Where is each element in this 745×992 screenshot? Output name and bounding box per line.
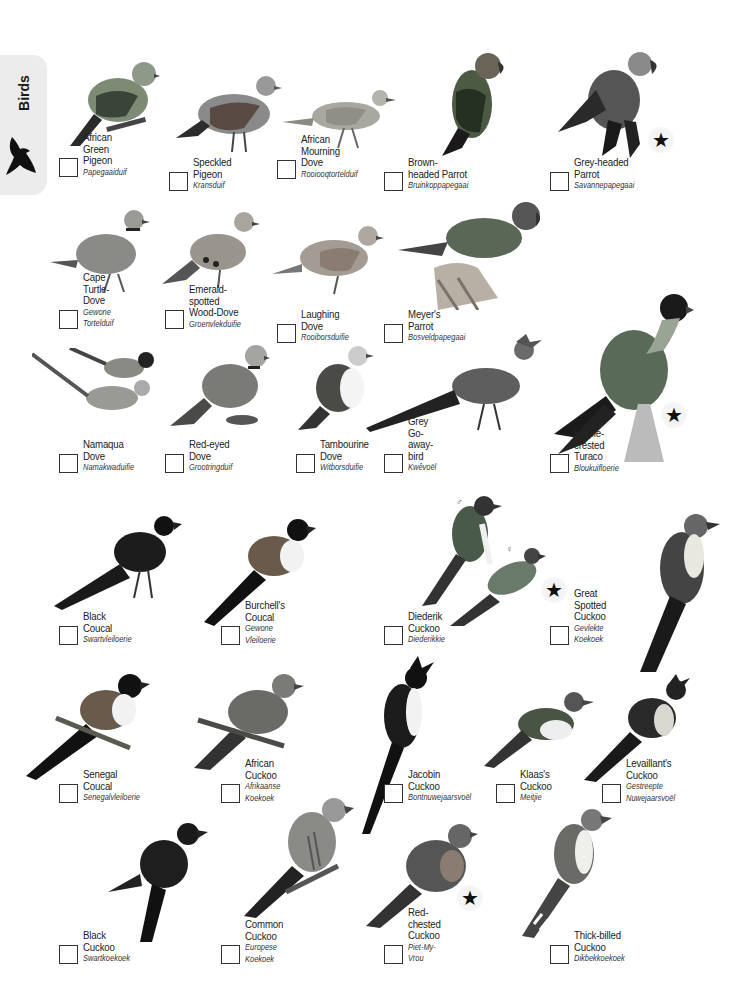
afrikaans-name: Groenvlekduifie	[189, 319, 241, 331]
common-name: Red-chested Cuckoo	[408, 907, 441, 942]
common-name: Jacobin Cuckoo	[408, 769, 471, 792]
afrikaans-name: Bruinkoppapegaai	[408, 180, 468, 192]
checkbox-african-cuckoo[interactable]	[221, 784, 240, 803]
checkbox-namaqua-dove[interactable]	[59, 454, 78, 473]
afrikaans-name: Gestreepte Nuwejaarsvoël	[626, 781, 675, 804]
checkbox-grey-headed-parrot[interactable]	[550, 172, 569, 191]
checkbox-emerald-spotted-wood-dove[interactable]	[165, 310, 184, 329]
afrikaans-name: Savannepapegaai	[574, 180, 634, 192]
common-name: Laughing Dove	[301, 309, 349, 332]
checkbox-red-chested-cuckoo[interactable]	[384, 945, 403, 964]
brown-headed-parrot-image	[436, 48, 508, 158]
common-name: Cape Turtle-Dove	[83, 272, 113, 307]
checkbox-black-cuckoo[interactable]	[59, 945, 78, 964]
afrikaans-name: Gevlekte Koekoek	[574, 623, 606, 646]
speckled-pigeon-image	[174, 72, 284, 156]
checkbox-laughing-dove[interactable]	[277, 324, 296, 343]
common-name: Purple-crested Turaco	[574, 428, 619, 463]
common-name: Senegal Coucal	[83, 769, 140, 792]
afrikaans-name: Europese Koekoek	[245, 942, 283, 965]
checkbox-diederik-cuckoo[interactable]	[384, 626, 403, 645]
checkbox-burchells-coucal[interactable]	[221, 626, 240, 645]
common-name: African Green Pigeon	[83, 132, 127, 167]
afrikaans-name: Piet-My-Vrou	[408, 942, 441, 965]
checkbox-brown-headed-parrot[interactable]	[384, 172, 403, 191]
afrikaans-name: Gewone Tortelduif	[83, 307, 113, 330]
afrikaans-name: Papegaaiduif	[83, 167, 127, 179]
checkbox-thick-billed-cuckoo[interactable]	[550, 945, 569, 964]
common-name: Brown-headed Parrot	[408, 157, 468, 180]
checkbox-tambourine-dove[interactable]	[296, 454, 315, 473]
checkbox-african-mourning-dove[interactable]	[277, 160, 296, 179]
jacobin-cuckoo-image	[360, 656, 440, 836]
common-name: Common Cuckoo	[245, 919, 283, 942]
afrikaans-name: Gewone Vleiloerie	[245, 623, 285, 646]
special-bird-star-icon: ★	[661, 402, 687, 428]
checkbox-purple-crested-turaco[interactable]	[550, 454, 569, 473]
common-name: Klaas's Cuckoo	[520, 769, 552, 792]
flying-bird-silhouette-icon	[4, 135, 40, 177]
klaass-cuckoo-image	[484, 688, 594, 774]
checkbox-senegal-coucal[interactable]	[59, 784, 78, 803]
checkbox-black-coucal[interactable]	[59, 626, 78, 645]
checkbox-speckled-pigeon[interactable]	[169, 172, 188, 191]
section-tab-birds[interactable]: Birds	[0, 55, 47, 195]
special-bird-star-icon: ★	[648, 127, 674, 153]
meyers-parrot-image	[398, 198, 544, 310]
common-name: African Cuckoo	[245, 758, 280, 781]
afrikaans-name: Meitjie	[520, 792, 552, 804]
common-name: Black Coucal	[83, 611, 132, 634]
checkbox-klaass-cuckoo[interactable]	[496, 784, 515, 803]
common-name: Levaillant's Cuckoo	[626, 758, 675, 781]
common-name: Emerald-spotted Wood-Dove	[189, 284, 241, 319]
afrikaans-name: Dikbekkoekoek	[574, 953, 625, 965]
common-name: Thick-billed Cuckoo	[574, 930, 625, 953]
afrikaans-name: Rooiooqtortelduif	[301, 169, 358, 181]
emerald-spotted-wood-dove-image	[160, 208, 260, 290]
senegal-coucal-image	[26, 672, 150, 780]
namaqua-dove-image	[32, 348, 156, 422]
great-spotted-cuckoo-image	[634, 512, 720, 674]
laughing-dove-image	[272, 222, 384, 298]
afrikaans-name: Kransduif	[193, 180, 231, 192]
grey-headed-parrot-image	[556, 50, 662, 160]
common-name: Grey-headed Parrot	[574, 157, 634, 180]
checkbox-great-spotted-cuckoo[interactable]	[550, 626, 569, 645]
red-eyed-dove-image	[170, 342, 270, 428]
common-name: Diederik Cuckoo	[408, 611, 445, 634]
tambourine-dove-image	[296, 342, 376, 432]
afrikaans-name: Diederikkie	[408, 634, 445, 646]
common-name: Red-eyed Dove	[189, 439, 232, 462]
common-name: African Mourning Dove	[301, 134, 358, 169]
afrikaans-name: Witborsduifie	[320, 462, 369, 474]
checkbox-grey-go-away-bird[interactable]	[384, 454, 403, 473]
afrikaans-name: Senegalvleiloerie	[83, 792, 140, 804]
checkbox-red-eyed-dove[interactable]	[165, 454, 184, 473]
common-name: Speckled Pigeon	[193, 157, 231, 180]
common-name: Tambourine Dove	[320, 439, 369, 462]
black-cuckoo-image	[108, 820, 208, 944]
section-tab-label: Birds	[14, 63, 34, 123]
afrikaans-name: Kwêvoël	[408, 462, 436, 474]
afrikaans-name: Bloukuifloerie	[574, 463, 619, 475]
common-name: Black Cuckoo	[83, 930, 130, 953]
checkbox-jacobin-cuckoo[interactable]	[384, 784, 403, 803]
common-name: Namaqua Dove	[83, 439, 134, 462]
common-cuckoo-image	[242, 796, 354, 920]
afrikaans-name: Swartvleiloerie	[83, 634, 132, 646]
special-bird-star-icon: ★	[457, 885, 483, 911]
checkbox-african-green-pigeon[interactable]	[59, 158, 78, 177]
common-name: Meyer's Parrot	[408, 309, 465, 332]
checkbox-levaillants-cuckoo[interactable]	[602, 784, 621, 803]
afrikaans-name: Swartkoekoek	[83, 953, 130, 965]
checkbox-cape-turtle-dove[interactable]	[59, 310, 78, 329]
common-name: Great Spotted Cuckoo	[574, 588, 606, 623]
afrikaans-name: Grootringduif	[189, 462, 232, 474]
black-coucal-image	[54, 512, 182, 610]
checkbox-common-cuckoo[interactable]	[221, 945, 240, 964]
afrikaans-name: Namakwaduifie	[83, 462, 134, 474]
common-name: Grey Go-away-bird	[408, 416, 436, 462]
thick-billed-cuckoo-image	[520, 806, 612, 940]
common-name: Burchell's Coucal	[245, 600, 285, 623]
afrikaans-name: Bontnuwejaarsvoël	[408, 792, 471, 804]
